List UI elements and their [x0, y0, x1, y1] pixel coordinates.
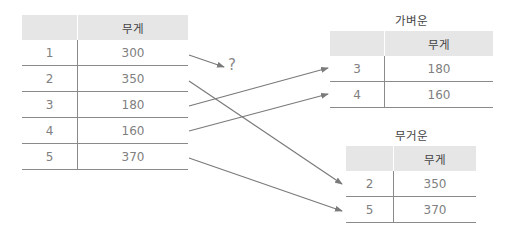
- unknown-marker: ?: [228, 56, 236, 74]
- arrow-row5-heavy: [189, 158, 342, 211]
- arrow-row1-unknown: [189, 55, 224, 67]
- arrow-row4-light: [189, 94, 328, 131]
- mapping-arrows: [0, 0, 514, 238]
- arrow-row3-light: [189, 68, 328, 106]
